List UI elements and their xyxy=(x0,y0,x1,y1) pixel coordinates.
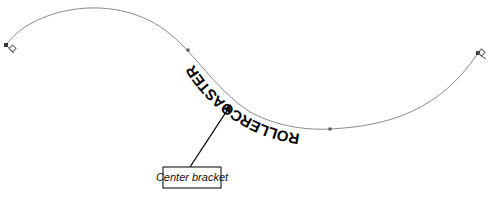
anchor-point-start[interactable] xyxy=(4,43,8,47)
callout-arrow xyxy=(190,106,230,167)
anchor-point-node-2[interactable] xyxy=(329,128,332,131)
end-bracket-icon[interactable] xyxy=(478,49,486,59)
anchor-point-node-1[interactable] xyxy=(187,49,190,52)
callout-label: Center bracket xyxy=(156,171,229,183)
start-bracket-icon[interactable] xyxy=(8,45,16,53)
path-type-text[interactable]: ROLLERCOASTER xyxy=(182,62,301,147)
illustration-canvas: ROLLERCOASTER Center bracket xyxy=(0,0,488,200)
